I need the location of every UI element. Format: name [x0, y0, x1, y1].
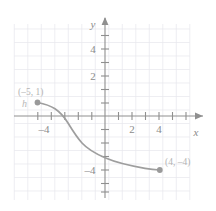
x-tick-label-4: 4: [156, 123, 162, 135]
y-tick-label-2: 2: [90, 70, 96, 82]
x-tick-label-neg4: –4: [38, 123, 51, 135]
graph-figure: –4 2 4 4 2 –4 x y (–5, 1) h (4, –4): [0, 0, 216, 211]
y-tick-label-4: 4: [90, 43, 96, 55]
x-tick-label-2: 2: [129, 123, 135, 135]
right-endpoint-label: (4, –4): [165, 157, 190, 168]
coordinate-plane: –4 2 4 4 2 –4 x y (–5, 1) h (4, –4): [0, 0, 216, 211]
y-tick-label-neg4: –4: [84, 164, 97, 176]
figure-background: [0, 0, 216, 211]
endpoint-dot-left: [35, 100, 41, 106]
left-endpoint-label: (–5, 1): [18, 87, 43, 98]
endpoint-dot-right: [157, 167, 163, 173]
function-name-label: h: [22, 98, 27, 109]
x-axis-label: x: [193, 126, 199, 138]
y-axis-label: y: [90, 18, 96, 30]
